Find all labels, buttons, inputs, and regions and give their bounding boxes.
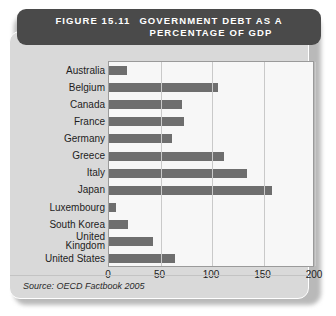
category-axis-labels: AustraliaBelgiumCanadaFranceGermanyGreec… bbox=[9, 62, 105, 267]
bar-germany bbox=[109, 134, 172, 143]
bar-greece bbox=[109, 152, 224, 161]
bar-row bbox=[109, 96, 313, 113]
category-label-germany: Germany bbox=[9, 130, 105, 147]
category-label-australia: Australia bbox=[9, 62, 105, 79]
category-label-luxembourg: Luxembourg bbox=[9, 199, 105, 216]
bar-row bbox=[109, 147, 313, 164]
bar-south-korea bbox=[109, 220, 128, 229]
bar-row bbox=[109, 216, 313, 233]
bar-luxembourg bbox=[109, 203, 116, 212]
category-label-italy: Italy bbox=[9, 165, 105, 182]
gridline-150 bbox=[264, 62, 265, 266]
figure-card: FIGURE 15.11 GOVERNMENT DEBT AS A PERCEN… bbox=[9, 9, 321, 305]
category-label-canada: Canada bbox=[9, 96, 105, 113]
bar-united-kingdom bbox=[109, 237, 153, 246]
bar-row bbox=[109, 250, 313, 267]
bar-belgium bbox=[109, 83, 218, 92]
bar-row bbox=[109, 79, 313, 96]
bar-row bbox=[109, 233, 313, 250]
bar-canada bbox=[109, 100, 182, 109]
figure-title-line2: PERCENTAGE OF GDP bbox=[139, 27, 282, 39]
bar-row bbox=[109, 182, 313, 199]
figure-header: FIGURE 15.11 GOVERNMENT DEBT AS A PERCEN… bbox=[17, 9, 321, 45]
bar-row bbox=[109, 199, 313, 216]
x-tick-label-200: 200 bbox=[306, 269, 323, 280]
bar-row bbox=[109, 113, 313, 130]
gridline-200 bbox=[315, 62, 316, 266]
figure-title-line1: GOVERNMENT DEBT AS A bbox=[139, 15, 282, 27]
bar-japan bbox=[109, 186, 272, 195]
category-label-japan: Japan bbox=[9, 182, 105, 199]
source-caption: Source: OECD Factbook 2005 bbox=[23, 281, 145, 291]
category-label-greece: Greece bbox=[9, 147, 105, 164]
figure-number: FIGURE 15.11 bbox=[55, 15, 130, 27]
category-label-united-kingdom: UnitedKingdom bbox=[9, 233, 105, 250]
bar-row bbox=[109, 165, 313, 182]
bar-series bbox=[109, 62, 313, 266]
gridline-50 bbox=[161, 62, 162, 266]
bar-australia bbox=[109, 66, 127, 75]
category-label-united-states: United States bbox=[9, 250, 105, 267]
bar-france bbox=[109, 117, 184, 126]
bar-united-states bbox=[109, 254, 175, 263]
category-label-belgium: Belgium bbox=[9, 79, 105, 96]
category-label-france: France bbox=[9, 113, 105, 130]
bar-row bbox=[109, 62, 313, 79]
plot-area bbox=[108, 61, 314, 267]
bar-chart: AustraliaBelgiumCanadaFranceGermanyGreec… bbox=[9, 49, 321, 285]
figure-title: GOVERNMENT DEBT AS A PERCENTAGE OF GDP bbox=[139, 15, 282, 39]
gridline-100 bbox=[212, 62, 213, 266]
bar-italy bbox=[109, 169, 247, 178]
footer-divider bbox=[10, 275, 308, 276]
bar-row bbox=[109, 130, 313, 147]
